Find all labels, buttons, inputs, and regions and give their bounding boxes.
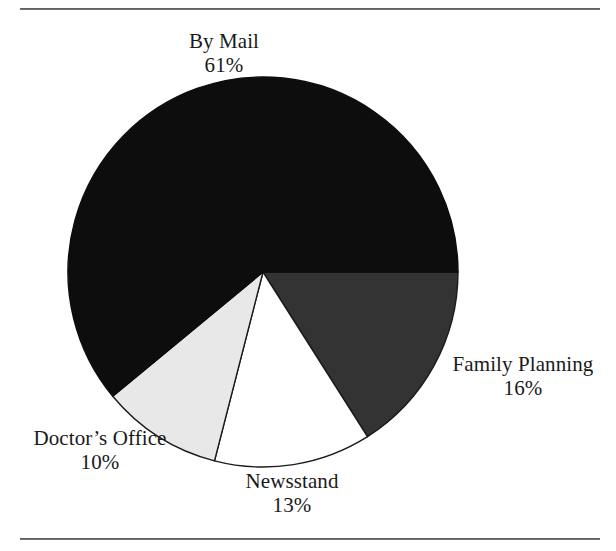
slice-label-newsstand-name: Newsstand bbox=[218, 470, 366, 494]
bottom-divider-rule bbox=[20, 538, 600, 540]
slice-label-by-mail-name: By Mail bbox=[148, 30, 300, 54]
slice-label-doctors-office-value: 10% bbox=[12, 451, 188, 475]
slice-label-doctors-office: Doctor’s Office 10% bbox=[12, 427, 188, 474]
pie-chart-figure: By Mail 61% Family Planning 16% Doctor’s… bbox=[0, 0, 616, 551]
slice-label-newsstand-value: 13% bbox=[218, 494, 366, 518]
slice-label-newsstand: Newsstand 13% bbox=[218, 470, 366, 517]
slice-label-family-planning-name: Family Planning bbox=[432, 353, 614, 377]
slice-label-family-planning-value: 16% bbox=[432, 377, 614, 401]
slice-label-by-mail-value: 61% bbox=[148, 54, 300, 78]
pie-slice-group bbox=[68, 77, 458, 467]
slice-label-by-mail: By Mail 61% bbox=[148, 30, 300, 77]
slice-label-doctors-office-name: Doctor’s Office bbox=[12, 427, 188, 451]
slice-label-family-planning: Family Planning 16% bbox=[432, 353, 614, 400]
